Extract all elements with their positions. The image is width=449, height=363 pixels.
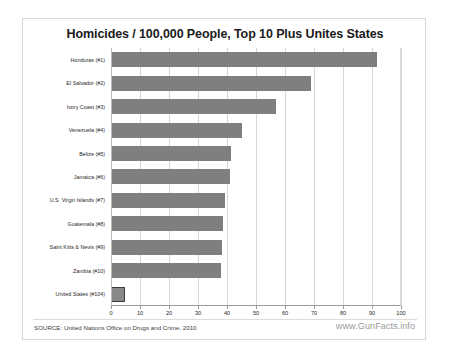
tick-mark-10 — [140, 306, 141, 309]
tick-label-40: 40 — [217, 310, 237, 316]
category-label-1: El Salvador (#2) — [23, 79, 105, 87]
watermark-link: www.GunFacts.info — [336, 321, 415, 331]
category-label-6: U.S. Virgin Islands (#7) — [23, 196, 105, 204]
tick-label-20: 20 — [159, 310, 179, 316]
tick-label-50: 50 — [246, 310, 266, 316]
category-label-2: Ivory Coast (#3) — [23, 103, 105, 111]
category-label-5: Jamaica (#6) — [23, 173, 105, 181]
tick-mark-20 — [169, 306, 170, 309]
category-label-0: Honduras (#1) — [23, 56, 105, 64]
tick-label-30: 30 — [188, 310, 208, 316]
tick-mark-30 — [198, 306, 199, 309]
source-note: SOURCE: United Nations Office on Drugs a… — [34, 324, 197, 331]
tick-label-70: 70 — [304, 310, 324, 316]
category-label-10: United States (#104) — [23, 290, 105, 298]
tick-mark-40 — [227, 306, 228, 309]
category-label-3: Venezuela (#4) — [23, 126, 105, 134]
tick-label-0: 0 — [101, 310, 121, 316]
category-label-7: Guatemala (#8) — [23, 220, 105, 228]
category-label-9: Zambia (#10) — [23, 267, 105, 275]
tick-mark-0 — [111, 306, 112, 309]
tick-mark-50 — [256, 306, 257, 309]
tick-mark-90 — [372, 306, 373, 309]
tick-label-10: 10 — [130, 310, 150, 316]
category-label-4: Belize (#5) — [23, 150, 105, 158]
category-axis-labels: Honduras (#1)El Salvador (#2)Ivory Coast… — [23, 48, 109, 306]
gridline-100 — [401, 48, 402, 306]
chart-title: Homicides / 100,000 People, Top 10 Plus … — [23, 27, 427, 41]
tick-mark-70 — [314, 306, 315, 309]
footer-divider — [33, 319, 417, 320]
tick-mark-80 — [343, 306, 344, 309]
tick-label-80: 80 — [333, 310, 353, 316]
tick-label-90: 90 — [362, 310, 382, 316]
tick-label-100: 100 — [391, 310, 411, 316]
plot-frame — [111, 48, 401, 306]
chart-card: Homicides / 100,000 People, Top 10 Plus … — [22, 18, 426, 340]
tick-mark-60 — [285, 306, 286, 309]
category-label-8: Saint Kitts & Nevis (#9) — [23, 243, 105, 251]
tick-label-60: 60 — [275, 310, 295, 316]
plot-area — [111, 48, 401, 306]
tick-mark-100 — [401, 306, 402, 309]
